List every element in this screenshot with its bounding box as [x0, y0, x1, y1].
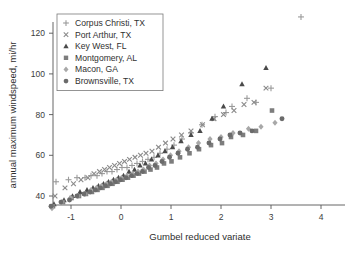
data-point [113, 179, 118, 184]
data-point [244, 95, 250, 101]
legend-label: Montgomery, AL [75, 53, 137, 63]
legend-label: Port Arthur, TX [75, 30, 131, 40]
axis-labels: -101234406080100120Gumbel reduced variat… [7, 28, 324, 242]
data-point [239, 81, 244, 86]
data-point [163, 141, 168, 146]
data-point [250, 128, 255, 133]
y-tick-label: 80 [36, 110, 46, 120]
data-point [133, 155, 138, 160]
y-tick-label: 100 [31, 69, 45, 79]
data-point [153, 163, 158, 168]
data-point [156, 145, 161, 150]
legend-marker-square [64, 56, 68, 60]
data-point [242, 102, 247, 107]
x-tick-label: -1 [67, 212, 75, 222]
data-point [176, 151, 181, 156]
y-axis-title: annual maximum windspeed, mi/hr [7, 42, 18, 189]
legend-label: Macon, GA [75, 64, 118, 74]
data-point [146, 165, 151, 170]
series-port-arthur-tx [53, 86, 269, 199]
x-tick-label: 3 [269, 212, 274, 222]
data-point [49, 204, 54, 209]
data-point [138, 153, 143, 158]
data-point [221, 104, 226, 109]
legend-label: Brownsville, TX [75, 76, 134, 86]
legend-marker-circle [64, 79, 69, 84]
data-point [135, 171, 140, 176]
chart-figure: -101234406080100120Gumbel reduced variat… [0, 0, 351, 255]
x-tick-label: 4 [319, 212, 324, 222]
legend-label: Key West, FL [75, 41, 127, 51]
data-point [264, 86, 269, 91]
data-point [112, 163, 117, 168]
y-tick-label: 120 [31, 28, 45, 38]
data-point [93, 187, 98, 192]
data-point [79, 177, 84, 182]
data-point [92, 171, 97, 176]
data-point [118, 177, 123, 182]
scatter-plot-canvas: -101234406080100120Gumbel reduced variat… [0, 0, 351, 255]
data-point [195, 145, 200, 150]
data-point [124, 175, 129, 180]
x-tick-label: 1 [169, 212, 174, 222]
data-point [107, 165, 112, 170]
legend: Corpus Christi, TXPort Arthur, TXKey Wes… [57, 14, 163, 91]
data-point [270, 108, 275, 113]
data-point [88, 173, 94, 179]
data-point [218, 137, 223, 142]
data-point [171, 137, 176, 142]
data-point [169, 159, 174, 164]
data-point [71, 181, 76, 186]
data-point [67, 198, 72, 203]
data-point [160, 159, 165, 164]
data-point [98, 185, 103, 190]
data-point [66, 177, 72, 183]
data-point [127, 157, 132, 162]
y-tick-label: 40 [36, 191, 46, 201]
data-point [197, 128, 202, 133]
x-tick-label: 2 [219, 212, 224, 222]
data-point [280, 116, 285, 121]
data-point [144, 151, 149, 156]
data-point [117, 161, 122, 166]
data-point [129, 173, 134, 178]
data-point [228, 132, 233, 137]
x-axis-title: Gumbel reduced variate [149, 231, 250, 242]
data-point [88, 189, 93, 194]
data-point [298, 14, 304, 20]
data-point [258, 124, 263, 130]
data-point [272, 120, 277, 126]
data-point [263, 65, 268, 70]
data-point [108, 181, 113, 186]
data-point [187, 151, 192, 156]
data-point [140, 169, 145, 174]
data-point [150, 149, 155, 154]
data-point [185, 147, 190, 152]
data-point [122, 159, 127, 164]
y-tick-label: 60 [36, 150, 46, 160]
data-point [268, 85, 274, 91]
data-point [207, 141, 212, 146]
data-point [238, 130, 243, 135]
data-point [59, 200, 64, 205]
data-point [82, 191, 87, 196]
data-point [167, 155, 172, 160]
data-point [53, 179, 59, 185]
data-point [178, 155, 183, 160]
x-tick-label: 0 [119, 212, 124, 222]
data-point [232, 108, 237, 113]
data-point [63, 186, 68, 191]
data-point [75, 194, 80, 199]
data-point [220, 141, 225, 146]
data-point [103, 183, 108, 188]
legend-label: Corpus Christi, TX [75, 18, 145, 28]
